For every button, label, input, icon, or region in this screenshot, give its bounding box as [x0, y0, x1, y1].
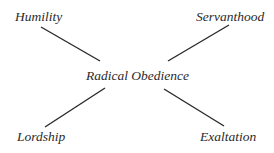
connector-humility — [41, 27, 100, 61]
connector-exaltation — [164, 89, 224, 126]
connector-lordship — [45, 88, 105, 127]
node-servanthood: Servanthood — [196, 10, 264, 24]
node-exaltation: Exaltation — [200, 130, 256, 144]
node-lordship: Lordship — [17, 130, 65, 144]
radical-obedience-diagram: Humility Servanthood Radical Obedience L… — [0, 0, 274, 153]
node-humility: Humility — [15, 10, 62, 24]
center-radical-obedience: Radical Obedience — [86, 69, 189, 83]
connector-servanthood — [168, 25, 229, 61]
